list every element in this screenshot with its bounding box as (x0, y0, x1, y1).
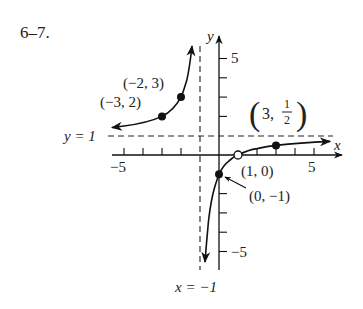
label-point-neg3-2: (−3, 2) (100, 94, 141, 111)
label-point-1-0: (1, 0) (241, 163, 274, 180)
tick-label-x-5: 5 (308, 159, 316, 175)
tick-label-y-5: 5 (231, 50, 239, 66)
label-point-3-half: ( 3, 1 2 ) (249, 95, 307, 133)
asymptote-label-xneg1: x = −1 (174, 279, 217, 295)
hole-1-0 (234, 151, 242, 159)
tick-label-x-neg5: −5 (110, 159, 126, 175)
point-0-neg1 (215, 170, 223, 178)
problem-number: 6–7. (20, 23, 50, 42)
x-axis-label: x (333, 137, 341, 153)
label-point-0-neg1: (0, −1) (249, 188, 290, 205)
frac-numerator: 1 (284, 97, 290, 111)
paren-open: ( (249, 95, 260, 133)
tick-label-y-neg5: −5 (231, 244, 247, 260)
asymptote-label-y1: y = 1 (62, 128, 96, 144)
label-3: 3, (262, 105, 274, 122)
point-neg2-3 (177, 93, 185, 101)
y-axis-label: y (205, 28, 214, 44)
paren-close: ) (296, 95, 307, 133)
label-point-neg2-3: (−2, 3) (123, 75, 164, 92)
point-3-half (272, 141, 280, 149)
graph: 6–7. y x −5 5 5 −5 (0, 0, 363, 309)
point-neg3-2 (158, 112, 166, 120)
frac-denominator: 2 (284, 113, 290, 127)
